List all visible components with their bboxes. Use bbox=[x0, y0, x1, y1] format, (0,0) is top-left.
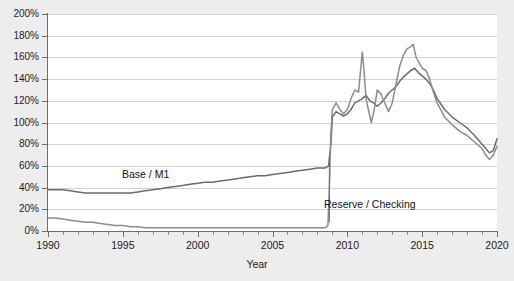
series-svg bbox=[0, 0, 514, 281]
series-label-reserve-checking: Reserve / Checking bbox=[324, 198, 416, 210]
x-axis-title: Year bbox=[0, 258, 514, 270]
series-line-base-m1 bbox=[48, 68, 497, 193]
series-line-reserve-checking bbox=[48, 44, 497, 227]
chart-root: 0%20%40%60%80%100%120%140%160%180%200% 1… bbox=[0, 0, 514, 281]
series-label-base-m1: Base / M1 bbox=[122, 168, 169, 180]
